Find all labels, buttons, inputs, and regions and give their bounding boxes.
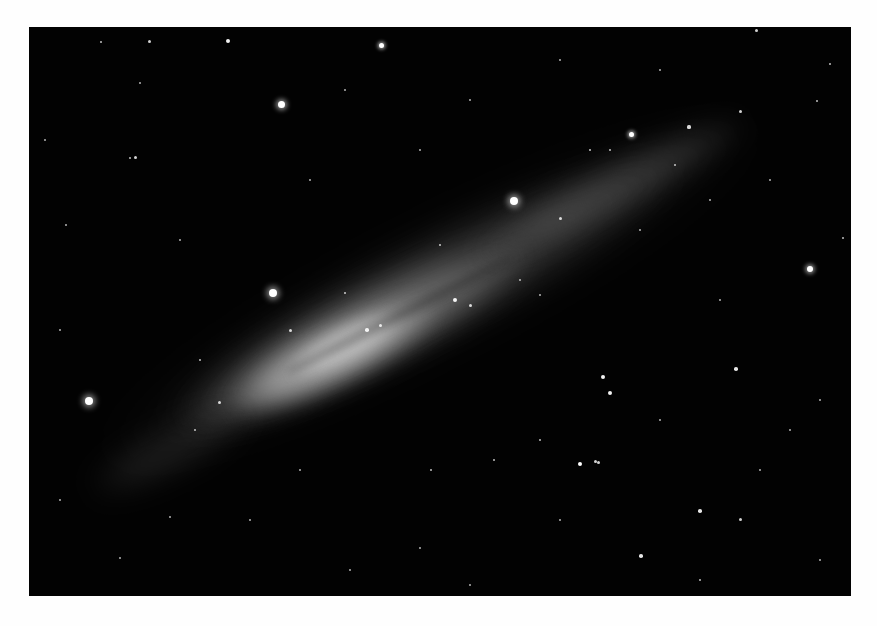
star [139, 82, 141, 84]
star [698, 509, 702, 513]
star [687, 125, 690, 128]
star [344, 292, 347, 295]
star [309, 179, 311, 181]
galaxy-photograph [29, 27, 851, 596]
star [829, 63, 831, 65]
star [59, 499, 61, 501]
star [816, 100, 818, 102]
star [719, 299, 721, 301]
star [734, 367, 738, 371]
star [344, 89, 346, 91]
star [419, 149, 421, 151]
star [589, 149, 592, 152]
star [578, 462, 582, 466]
star [349, 569, 351, 571]
star [119, 557, 121, 559]
star [100, 41, 102, 43]
star [85, 397, 93, 405]
star [269, 289, 277, 297]
image-border [0, 0, 877, 626]
star [539, 439, 541, 441]
star [709, 199, 711, 201]
star [659, 69, 661, 71]
star [278, 101, 285, 108]
star [739, 110, 742, 113]
star [807, 266, 813, 272]
star [755, 29, 758, 32]
star [194, 429, 196, 431]
star [148, 40, 151, 43]
star [430, 469, 432, 471]
star [639, 229, 641, 231]
star [179, 239, 181, 241]
star [819, 559, 821, 561]
star [519, 279, 521, 281]
star [289, 329, 292, 332]
star [842, 237, 844, 239]
star [739, 518, 742, 521]
star [597, 461, 600, 464]
star [559, 519, 561, 521]
star [44, 139, 46, 141]
star [510, 197, 518, 205]
star [299, 469, 301, 471]
star-field [29, 27, 851, 596]
star [639, 554, 643, 558]
star [218, 401, 221, 404]
star [365, 328, 369, 332]
star [379, 324, 382, 327]
star [469, 584, 471, 586]
star [699, 579, 701, 581]
star [249, 519, 251, 521]
star [539, 294, 541, 296]
star [453, 298, 457, 302]
star [629, 132, 634, 137]
star [601, 375, 605, 379]
star [129, 157, 131, 159]
star [819, 399, 821, 401]
star [469, 304, 472, 307]
star [559, 59, 561, 61]
star [199, 359, 201, 361]
star [59, 329, 61, 331]
star [659, 419, 661, 421]
star [759, 469, 761, 471]
star [608, 391, 612, 395]
star [379, 43, 384, 48]
star [65, 224, 67, 226]
star [559, 217, 562, 220]
star [789, 429, 791, 431]
star [419, 547, 421, 549]
star [674, 164, 676, 166]
star [169, 516, 171, 518]
star [609, 149, 611, 151]
star [469, 99, 471, 101]
star [226, 39, 230, 43]
star [134, 156, 137, 159]
star [493, 459, 495, 461]
star [439, 244, 442, 247]
star [769, 179, 771, 181]
